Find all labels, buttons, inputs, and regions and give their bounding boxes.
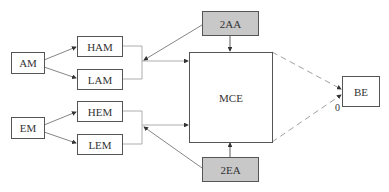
node-2aa: 2AA: [202, 11, 259, 36]
node-hem-label: HEM: [88, 106, 112, 118]
node-em-label: EM: [20, 122, 37, 134]
node-lem: LEM: [77, 134, 123, 155]
node-am-label: AM: [19, 57, 37, 69]
node-be-label: BE: [354, 86, 368, 98]
node-lem-label: LEM: [88, 139, 111, 151]
node-mce: MCE: [189, 52, 273, 143]
node-em: EM: [11, 117, 45, 139]
node-lam: LAM: [77, 69, 123, 90]
node-ham-label: HAM: [87, 41, 113, 53]
node-hem: HEM: [77, 101, 123, 122]
node-2ea: 2EA: [202, 157, 259, 182]
node-ham: HAM: [77, 36, 123, 57]
node-2aa-label: 2AA: [220, 18, 241, 30]
node-mce-label: MCE: [219, 92, 243, 104]
node-be: BE: [342, 76, 380, 107]
edge-label-zero: 0: [335, 102, 340, 113]
node-2ea-label: 2EA: [220, 164, 240, 176]
node-lam-label: LAM: [88, 74, 112, 86]
node-am: AM: [11, 52, 45, 74]
